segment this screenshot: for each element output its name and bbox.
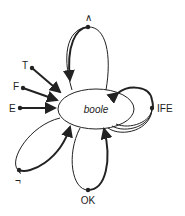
node-IFE-dot [150, 106, 154, 110]
edge-T: T [22, 60, 60, 92]
edge-and-loop: ∧ [67, 12, 108, 90]
node-F-label: F [13, 81, 19, 92]
node-T-label: T [22, 60, 28, 71]
node-not-label: ¬ [15, 175, 21, 186]
edge-OK-loop: OK [72, 128, 107, 206]
node-boole-label: boole [84, 104, 109, 115]
node-OK-label: OK [81, 195, 96, 206]
node-E-label: E [9, 103, 16, 114]
node-boole: boole [58, 89, 134, 129]
node-IFE-label: IFE [157, 103, 173, 114]
node-OK-dot [86, 188, 90, 192]
edge-not-loop: ¬ [15, 118, 70, 186]
node-and-dot [86, 25, 90, 29]
diagram-canvas: boole ∧ T F E IFE ¬ [0, 0, 185, 216]
edge-E: E [9, 103, 55, 114]
node-and-label: ∧ [85, 12, 92, 23]
node-not-dot [17, 168, 21, 172]
